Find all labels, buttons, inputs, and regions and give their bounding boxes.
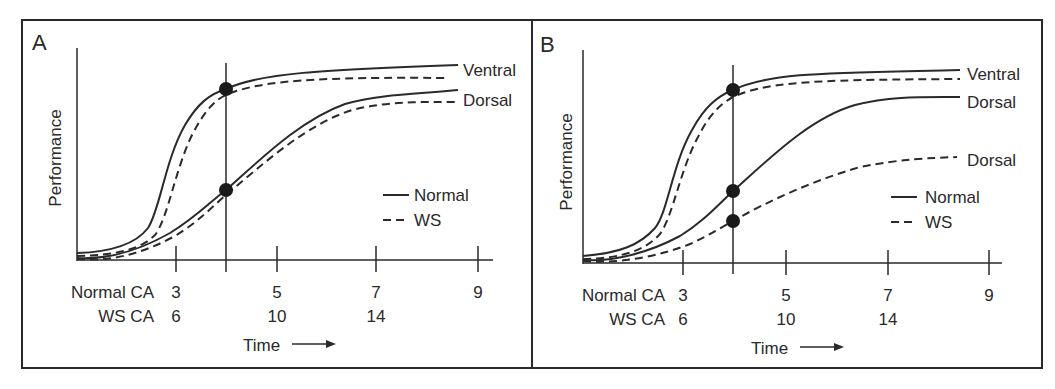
curve-label-ventral: Ventral (967, 65, 1020, 84)
arrow-right-icon (800, 343, 844, 351)
marker-dorsal (219, 183, 233, 197)
tick-label-ws-14: 14 (367, 307, 386, 326)
dorsal-ws-curve (77, 102, 455, 260)
legend-normal-label: Normal (414, 186, 469, 205)
tick-label-ws-10: 10 (268, 307, 287, 326)
arrow-right-icon (292, 340, 336, 348)
panel-label-b: B (540, 32, 555, 57)
panel-label-a: A (32, 30, 47, 55)
dorsal-ws-curve (583, 157, 957, 262)
curve-label-dorsal-ws: Dorsal (967, 151, 1016, 170)
tick-label-ws-14: 14 (879, 310, 898, 329)
ventral-ws-curve (583, 79, 960, 259)
x-axis-label: Time (751, 339, 788, 358)
legend: Normal WS (383, 186, 469, 230)
panel-a: A Performance Ventral Dorsal Normal W (32, 30, 516, 355)
legend-ws-label: WS (925, 213, 952, 232)
row-label-ws-ca: WS CA (98, 307, 154, 326)
tick-label-normal-3: 3 (678, 286, 687, 305)
tick-label-normal-7: 7 (371, 283, 380, 302)
legend-ws-label: WS (414, 211, 441, 230)
y-axis-label: Performance (46, 109, 65, 206)
y-axis-label: Performance (557, 113, 576, 210)
curve-label-ventral: Ventral (463, 61, 516, 80)
tick-label-normal-9: 9 (473, 283, 482, 302)
tick-label-normal-7: 7 (883, 286, 892, 305)
ventral-ws-curve (77, 78, 448, 256)
figure: A Performance Ventral Dorsal Normal W (0, 0, 1055, 389)
tick-label-ws-6: 6 (171, 307, 180, 326)
ventral-normal-curve (77, 65, 458, 253)
legend-normal-label: Normal (925, 188, 980, 207)
tick-label-ws-10: 10 (777, 310, 796, 329)
dorsal-normal-curve (77, 90, 458, 258)
marker-dorsal-normal (726, 184, 740, 198)
curve-label-dorsal-normal: Dorsal (967, 93, 1016, 112)
dorsal-normal-curve (583, 97, 960, 260)
marker-dorsal-ws (726, 214, 740, 228)
legend: Normal WS (891, 188, 980, 232)
curve-label-dorsal: Dorsal (463, 91, 512, 110)
tick-label-normal-5: 5 (781, 286, 790, 305)
marker-ventral (726, 83, 740, 97)
tick-label-normal-5: 5 (272, 283, 281, 302)
x-axis-label: Time (243, 336, 280, 355)
panel-b: B Performance Ventral Dorsal Dorsal Norm… (540, 32, 1020, 358)
marker-ventral (219, 82, 233, 96)
tick-label-ws-6: 6 (678, 310, 687, 329)
tick-label-normal-3: 3 (171, 283, 180, 302)
tick-label-normal-9: 9 (984, 286, 993, 305)
row-label-ws-ca: WS CA (609, 310, 665, 329)
row-label-normal-ca: Normal CA (71, 283, 155, 302)
row-label-normal-ca: Normal CA (582, 286, 666, 305)
x-ticks (176, 246, 478, 272)
